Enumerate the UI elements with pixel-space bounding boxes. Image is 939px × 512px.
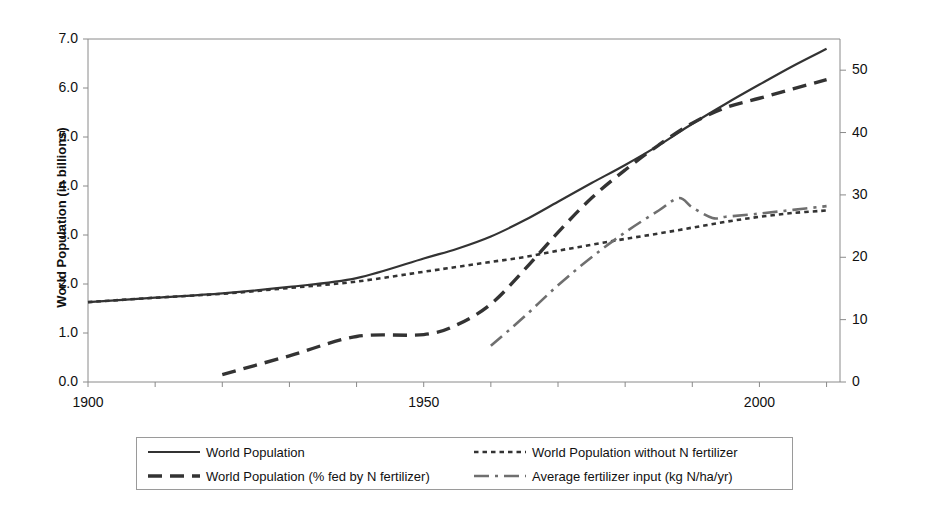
y-tick-label-left: 1.0 [38, 324, 78, 340]
y-tick-label-right: 20 [852, 248, 892, 264]
y-tick-label-right: 40 [852, 124, 892, 140]
x-tick-label: 1950 [394, 394, 454, 410]
series-line-3 [491, 198, 827, 346]
legend-label: World Population (% fed by N fertilizer) [206, 469, 430, 484]
legend-item[interactable]: World Population without N fertilizer [473, 440, 738, 464]
legend-item[interactable]: World Population [147, 440, 305, 464]
series-line-2 [222, 80, 826, 375]
legend-entry-1: World Population without N fertilizer [473, 440, 738, 464]
y-tick-label-left: 4.0 [38, 177, 78, 193]
y-tick-label-right: 50 [852, 61, 892, 77]
legend-line-sample [147, 446, 201, 458]
legend-entry-3: Average fertilizer input (kg N/ha/yr) [473, 464, 733, 488]
y-tick-label-right: 10 [852, 311, 892, 327]
legend-label: Average fertilizer input (kg N/ha/yr) [532, 469, 733, 484]
legend-line-sample [473, 446, 527, 458]
series-line-1 [88, 211, 827, 303]
y-tick-label-right: 0 [852, 373, 892, 389]
chart-legend: World PopulationWorld Population without… [136, 437, 793, 490]
legend-swatch-solid-icon [147, 446, 201, 458]
y-tick-label-left: 2.0 [38, 275, 78, 291]
y-tick-label-left: 0.0 [38, 373, 78, 389]
legend-item[interactable]: World Population (% fed by N fertilizer) [147, 464, 430, 488]
plot-frame [88, 39, 840, 382]
y-tick-label-right: 30 [852, 186, 892, 202]
legend-line-sample [147, 470, 201, 482]
legend-entry-2: World Population (% fed by N fertilizer) [147, 464, 430, 488]
y-tick-label-left: 3.0 [38, 226, 78, 242]
x-tick-label: 1900 [58, 394, 118, 410]
legend-swatch-dotted-icon [473, 446, 527, 458]
legend-item[interactable]: Average fertilizer input (kg N/ha/yr) [473, 464, 733, 488]
legend-line-sample [473, 470, 527, 482]
legend-swatch-dashed-icon [147, 470, 201, 482]
legend-swatch-dashdot-icon [473, 470, 527, 482]
legend-label: World Population without N fertilizer [532, 445, 738, 460]
plot-area [0, 0, 939, 512]
y-tick-label-left: 5.0 [38, 128, 78, 144]
chart-container: World Population (in billions) World pop… [0, 0, 939, 512]
y-tick-label-left: 7.0 [38, 30, 78, 46]
series-line-0 [88, 49, 827, 302]
legend-label: World Population [206, 445, 305, 460]
y-tick-label-left: 6.0 [38, 79, 78, 95]
legend-entry-0: World Population [147, 440, 305, 464]
x-tick-label: 2000 [729, 394, 789, 410]
